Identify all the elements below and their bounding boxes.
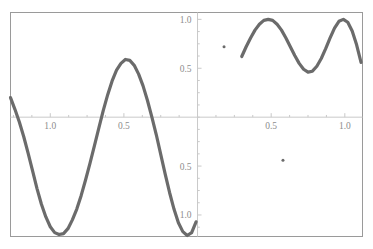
y-tick-label: 0.5 [180,64,192,74]
plot-canvas: 1.00.50.51.01.00.50.51.0 [0,0,373,249]
x-tick-label: 1.0 [339,121,351,131]
x-tick-label: 0.5 [265,121,277,131]
isolated-point-2 [281,159,284,162]
x-tick-label: 0.5 [118,121,130,131]
y-tick-label: 0.5 [180,162,192,172]
isolated-point-1 [223,45,226,48]
plot-figure: 1.00.50.51.01.00.50.51.0 [0,0,373,249]
y-tick-label: 1.0 [180,210,192,220]
x-tick-label: 1.0 [44,121,56,131]
y-tick-label: 1.0 [180,15,192,25]
